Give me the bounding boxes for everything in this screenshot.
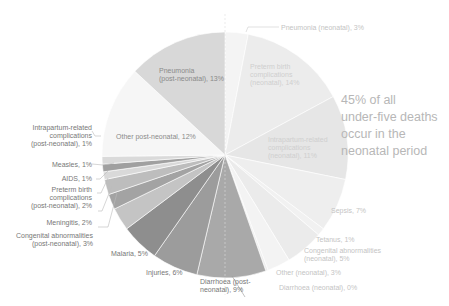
label-sepsis: Sepsis, 7% (331, 207, 366, 215)
label-malaria: Malaria, 5% (111, 250, 148, 258)
label-pneumonia-post-neonatal: Pneumonia (post-neonatal), 13% (159, 67, 224, 83)
label-aids: AIDS, 1% (62, 175, 92, 183)
label-pneumonia-neonatal: Pneumonia (neonatal), 3% (281, 24, 364, 32)
label-congenital-post-neonatal: Congenital abnormalities (post-neonatal)… (16, 232, 93, 248)
label-injuries: Injuries, 6% (146, 269, 183, 277)
label-congenital-neonatal: Congenital abnormalities (neonatal), 5% (304, 247, 381, 263)
label-meningitis: Meningitis, 2% (46, 219, 92, 227)
label-intrapartum-post-neonatal: Intrapartum-related complications (post-… (31, 124, 92, 148)
label-diarrhoea-neonatal: Diarrhoea (neonatal), 0% (279, 284, 357, 292)
label-preterm-neonatal: Preterm birth complications (neonatal), … (250, 63, 299, 87)
neonatal-annotation: 45% of all under-five deaths occur in th… (341, 92, 438, 160)
label-other-post-neonatal: Other post-neonatal, 12% (116, 133, 196, 141)
label-measles: Measles, 1% (52, 161, 92, 169)
label-other-neonatal: Other (neonatal), 3% (276, 269, 341, 277)
label-intrapartum-neonatal: Intrapartum-related complications (neona… (268, 136, 328, 160)
label-preterm-post-neonatal: Preterm birth complications (post-neonat… (31, 186, 92, 210)
label-tetanus: Tetanus, 1% (316, 236, 355, 244)
label-diarrhoea-post-neonatal: Diarrhoea (post- neonatal), 9% (200, 278, 251, 294)
